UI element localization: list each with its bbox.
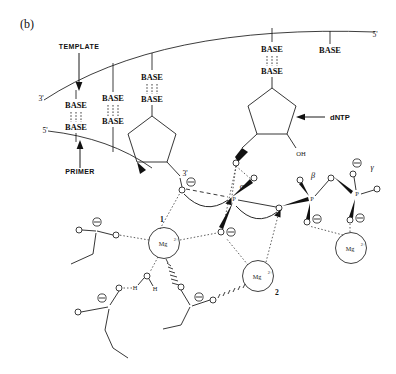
carboxylate-ligand-center-bottom: [163, 284, 210, 329]
leaving-group-arrow: [236, 206, 281, 219]
beta-label: β: [310, 171, 316, 180]
magnesium-1-label: Mg: [159, 240, 168, 247]
phosphorus-beta-atom: P: [310, 195, 314, 202]
base-single-5: BASE: [319, 31, 341, 55]
dntp-callout: dNTP: [296, 113, 350, 122]
primer-5prime-label: 5': [42, 126, 48, 135]
magnesium-2-charge: 2+: [268, 270, 273, 275]
magnesium-2-label: Mg: [253, 273, 262, 280]
inline-attack-axis: [186, 189, 228, 197]
base-pair-2-top: BASE: [102, 94, 124, 103]
oxygen-beta-nonbridge-down: [304, 219, 310, 225]
hydrogen-bonds-1: [71, 112, 81, 122]
gamma-phosphate-group: P γ: [334, 159, 380, 223]
magnesium-3-label: Mg: [346, 245, 355, 252]
base-single-5-top: BASE: [319, 46, 341, 55]
hydrogen-bonds-2: [108, 105, 118, 116]
water-hydrogen-right: H: [153, 285, 158, 292]
carboxylate-a-oxygen-terminal: [76, 227, 82, 233]
panel-label: (b): [20, 17, 34, 31]
oxygen-carboxylate-mg2: [210, 297, 216, 303]
template-label: TEMPLATE: [59, 43, 99, 50]
carboxylate-a-oxygen-coord: [113, 232, 119, 238]
oxygen-gamma-right: [374, 186, 380, 192]
carboxylate-ligand-lower-left: [75, 285, 128, 358]
oxygen-3prime: [179, 187, 185, 193]
base-pair-2: BASE BASE: [102, 63, 124, 152]
water-oxygen: [144, 273, 150, 279]
carboxylate-ligand-upper-left: [71, 218, 119, 264]
base-pair-4-top: BASE: [261, 45, 283, 54]
base-pair-4-bottom: BASE: [261, 67, 283, 76]
hydrogen-bonds-3: [147, 84, 157, 94]
magnesium-1-charge: 2+: [174, 237, 179, 242]
primer-label: PRIMER: [65, 168, 95, 175]
dntp-3prime-oh-label: OH: [296, 150, 306, 157]
oxygen-beta-gamma-bridge: [328, 175, 334, 181]
nucleophilic-attack-arrow: [184, 194, 232, 207]
base-pair-1-top: BASE: [65, 101, 87, 110]
oxygen-gamma-down: [347, 217, 353, 223]
water-hydrogen-left: H: [133, 284, 138, 291]
base-pair-1-bottom: BASE: [65, 123, 87, 132]
base-pair-3-top: BASE: [141, 73, 163, 82]
dntp-label: dNTP: [330, 113, 350, 122]
dntp-sugar-ring: OH: [235, 88, 306, 162]
magnesium-1-hatched-bond: [166, 259, 179, 285]
template-callout: TEMPLATE: [59, 43, 99, 91]
magnesium-3-charge: 2+: [361, 242, 366, 247]
primer-terminal-sugar: [128, 116, 180, 176]
magnesium-2-hatched-bond: [218, 284, 245, 298]
carboxylate-c-oxygen-coord: [178, 284, 184, 290]
oxygen-alpha-beta-bridge-group: [276, 205, 282, 211]
oxygen-alpha-nonbridge-down: [218, 229, 224, 235]
oxygen-gamma-up: [350, 171, 356, 177]
oxygen-5prime-bridge: [233, 160, 239, 166]
primer-callout: PRIMER: [65, 140, 95, 175]
beta-phosphate-group: P β: [282, 171, 334, 225]
base-pair-3: BASE BASE: [141, 53, 163, 116]
phosphorus-gamma-atom: P: [355, 190, 359, 197]
water-molecule: H H: [122, 273, 158, 292]
oxygen-alpha-nonbridge-up: [251, 175, 257, 181]
carboxylate-b-oxygen-coord: [116, 285, 122, 291]
alpha-phosphate-group: P α: [218, 160, 276, 236]
template-5prime-label: 5': [372, 30, 378, 39]
template-3prime-label: 3': [38, 94, 44, 103]
hydrogen-bonds-4: [267, 56, 277, 66]
primer-strand-backbone: [48, 131, 152, 168]
template-strand-backbone: [44, 31, 375, 100]
oxygen-beta-nonbridge-up: [297, 177, 303, 183]
magnesium-site-3: Mg 2+: [309, 224, 367, 264]
base-pair-2-bottom: BASE: [102, 117, 124, 126]
magnesium-site-2-number: 2: [275, 288, 279, 297]
base-pair-3-bottom: BASE: [141, 95, 163, 104]
figure-panel-b: 3' 5' 5' BASE BASE BASE BASE: [0, 0, 396, 374]
gamma-label: γ: [370, 163, 374, 172]
phosphorus-alpha-atom: P: [232, 195, 236, 202]
oxygen-alpha-beta-bridge: [276, 205, 282, 211]
base-pair-4: BASE BASE: [261, 28, 283, 88]
mechanism-diagram: 3' 5' 5' BASE BASE BASE BASE: [0, 0, 396, 374]
carboxylate-b-oxygen-terminal: [75, 309, 81, 315]
sugar-3prime-label: 3': [182, 169, 188, 178]
magnesium-site-1: Mg 2+ 1: [119, 193, 217, 285]
